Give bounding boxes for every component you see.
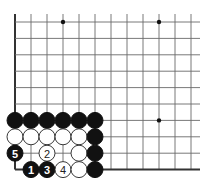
white-stone: [39, 129, 55, 145]
stone-circle: [23, 129, 39, 145]
move-number-label: 2: [44, 148, 50, 160]
stones: 52134: [7, 112, 103, 177]
stone-circle: [39, 112, 55, 128]
black-stone: 1: [23, 162, 39, 178]
stone-circle: [7, 112, 23, 128]
move-number-label: 5: [12, 148, 18, 160]
white-stone: [7, 129, 23, 145]
stone-circle: [71, 129, 87, 145]
stone-circle: [23, 112, 39, 128]
move-number-label: 1: [28, 164, 34, 176]
stone-circle: [87, 145, 103, 161]
stone-circle: [71, 145, 87, 161]
move-number-label: 4: [60, 164, 66, 176]
stone-circle: [55, 112, 71, 128]
stone-circle: [7, 129, 23, 145]
stone-circle: [87, 162, 103, 178]
white-stone: [71, 145, 87, 161]
black-stone: [87, 145, 103, 161]
star-point: [157, 118, 161, 122]
white-stone: [55, 129, 71, 145]
white-stone: 4: [55, 162, 71, 178]
star-point: [61, 20, 65, 24]
black-stone: [87, 162, 103, 178]
star-point: [157, 20, 161, 24]
black-stone: [23, 112, 39, 128]
black-stone: 5: [7, 145, 23, 161]
stone-circle: [39, 129, 55, 145]
black-stone: 3: [39, 162, 55, 178]
white-stone: 2: [39, 145, 55, 161]
black-stone: [55, 112, 71, 128]
go-board: 52134: [0, 0, 213, 192]
stone-circle: [71, 162, 87, 178]
stone-circle: [87, 129, 103, 145]
black-stone: [39, 112, 55, 128]
white-stone: [71, 129, 87, 145]
black-stone: [87, 112, 103, 128]
stone-circle: [87, 112, 103, 128]
white-stone: [23, 129, 39, 145]
white-stone: [71, 162, 87, 178]
black-stone: [71, 112, 87, 128]
black-stone: [7, 112, 23, 128]
black-stone: [87, 129, 103, 145]
move-number-label: 3: [44, 164, 50, 176]
stone-circle: [71, 112, 87, 128]
stone-circle: [55, 129, 71, 145]
